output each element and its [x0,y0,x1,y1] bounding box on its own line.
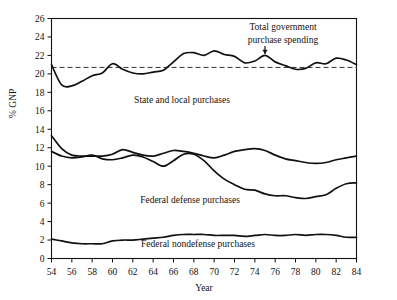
x-tick-label-78: 78 [291,267,301,277]
annotation-total-line2: purchase spending [248,35,319,45]
x-tick-label-68: 68 [189,267,199,277]
plot-frame [52,19,357,259]
y-tick-label-2: 2 [40,235,45,245]
annotation-total-line1: Total government [249,22,316,32]
y-tick-label-26: 26 [35,14,45,24]
y-tick-label-12: 12 [35,143,45,153]
x-tick-label-66: 66 [169,267,179,277]
label-fed-defense: Federal defense purchases [140,195,240,205]
x-tick-label-60: 60 [108,267,118,277]
y-tick-label-14: 14 [35,125,45,135]
y-tick-label-0: 0 [40,254,45,264]
y-tick-label-24: 24 [35,32,45,42]
y-axis-title-wrapper: % GNP [2,48,16,118]
line-chart: 0246810121416182022242654565860626466687… [0,0,397,300]
x-tick-label-82: 82 [331,267,341,277]
label-fed-nondefense: Federal nondefense purchases [141,239,255,249]
y-tick-label-18: 18 [35,88,45,98]
x-tick-label-54: 54 [47,267,57,277]
y-tick-label-20: 20 [35,69,45,79]
series-line-1 [52,136,357,164]
y-tick-label-22: 22 [35,51,45,61]
x-tick-label-62: 62 [128,267,138,277]
y-tick-label-10: 10 [35,162,45,172]
chart-container: 0246810121416182022242654565860626466687… [0,0,397,300]
label-state-local: State and local purchases [134,95,230,105]
x-tick-label-56: 56 [67,267,77,277]
x-tick-label-72: 72 [230,267,240,277]
x-tick-label-58: 58 [87,267,97,277]
y-axis-title: % GNP [8,89,18,118]
y-tick-label-16: 16 [35,106,45,116]
annotation-arrow-head [262,50,267,54]
x-tick-label-64: 64 [148,267,158,277]
series-line-0 [52,51,357,87]
y-tick-label-4: 4 [40,217,45,227]
x-tick-label-80: 80 [311,267,321,277]
series-line-2 [52,151,357,198]
x-axis-title: Year [195,283,213,293]
x-tick-label-70: 70 [209,267,219,277]
x-tick-label-84: 84 [352,267,362,277]
y-tick-label-6: 6 [40,199,45,209]
x-tick-label-74: 74 [250,267,260,277]
y-tick-label-8: 8 [40,180,45,190]
x-tick-label-76: 76 [270,267,280,277]
